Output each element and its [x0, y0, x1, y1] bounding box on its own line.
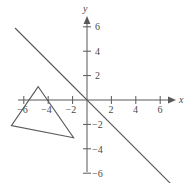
- y-tick-label-4: 4: [95, 47, 100, 57]
- x-tick-label-minus-2: −2: [66, 105, 77, 115]
- line-y-equals-negative-x: [15, 28, 172, 183]
- x-tick-label-2: 2: [109, 105, 114, 115]
- x-tick-label-minus-4: −4: [41, 105, 52, 115]
- y-axis-label: y: [83, 4, 87, 14]
- y-tick-label-minus-6: −6: [92, 169, 103, 179]
- x-axis: [18, 97, 176, 104]
- x-tick-label-6: 6: [158, 105, 163, 115]
- y-tick-label-minus-4: −4: [92, 145, 103, 155]
- x-tick-label-minus-6: −6: [17, 105, 28, 115]
- y-tick-label-6: 6: [95, 22, 100, 32]
- y-tick-label-2: 2: [95, 71, 100, 81]
- x-axis-label: x: [179, 95, 183, 105]
- coordinate-plane-figure: −6 −4 −2 2 4 6 2 4 6 −2 −4 −6 x y: [0, 0, 192, 183]
- y-tick-label-minus-2: −2: [92, 120, 103, 130]
- x-tick-label-4: 4: [133, 105, 138, 115]
